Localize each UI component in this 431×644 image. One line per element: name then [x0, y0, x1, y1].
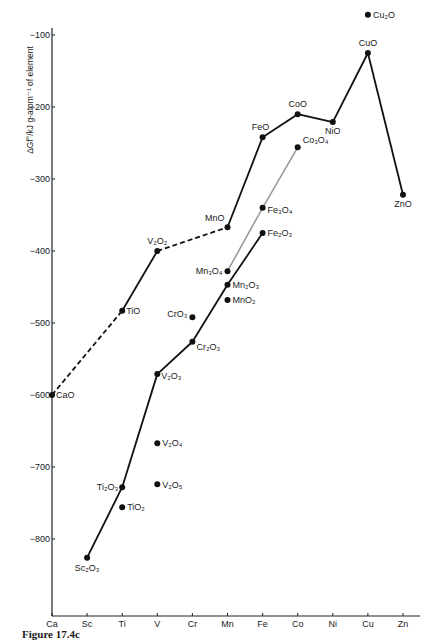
- data-point: [225, 282, 231, 288]
- data-point-label: V₂O₄: [162, 438, 182, 448]
- data-point-label: CoO: [288, 99, 307, 109]
- x-tick-label: Zn: [398, 619, 409, 629]
- x-tick-label: Sc: [82, 619, 93, 629]
- data-point: [119, 308, 125, 314]
- data-point-label: Ti₂O₃: [97, 482, 119, 492]
- data-point-label: FeO: [252, 122, 270, 132]
- data-point-label: TiO: [126, 306, 140, 316]
- data-point: [295, 144, 301, 150]
- data-point-label: V₂O₅: [162, 480, 182, 490]
- data-point: [225, 268, 231, 274]
- monoxide-line: [298, 114, 333, 122]
- data-point-label: Cr₂O₃: [196, 342, 220, 352]
- y-tick-label: −500: [30, 318, 50, 328]
- y-tick-label: −600: [30, 390, 50, 400]
- data-point: [189, 339, 195, 345]
- monoxide-line: [228, 137, 263, 227]
- x-tick-label: V: [154, 619, 160, 629]
- data-point-label: Sc₂O₃: [75, 563, 100, 573]
- data-point: [154, 371, 160, 377]
- x-tick-label: Co: [292, 619, 304, 629]
- sesquioxide-line: [192, 285, 227, 342]
- data-point-label: Cu₂O: [373, 10, 395, 20]
- oxide-free-energy-chart: −100−200−300−400−500−600−700−800CaScTiVC…: [0, 0, 431, 644]
- data-point: [154, 248, 160, 254]
- data-point-label: Co₃O₄: [303, 135, 329, 145]
- monoxide-line: [122, 251, 157, 311]
- data-point: [400, 192, 406, 198]
- data-point: [260, 134, 266, 140]
- data-point: [295, 111, 301, 117]
- data-point: [260, 205, 266, 211]
- x-tick-label: Fe: [257, 619, 268, 629]
- x-tick-label: Ti: [119, 619, 126, 629]
- y-tick-label: −300: [30, 174, 50, 184]
- y-tick-label: −700: [30, 462, 50, 472]
- data-point-label: V₂O₃: [161, 371, 181, 381]
- data-point-label: TiO₂: [127, 502, 145, 512]
- data-point-label: MnO₂: [233, 295, 257, 305]
- data-point-label: MnO: [205, 213, 225, 223]
- data-point: [119, 484, 125, 490]
- data-point-label: V₂O₂: [147, 236, 167, 246]
- x-tick-label: Ni: [329, 619, 338, 629]
- sesquioxide-line: [87, 487, 122, 558]
- data-point: [154, 481, 160, 487]
- data-point-label: Fe₂O₃: [268, 228, 293, 238]
- data-point: [365, 50, 371, 56]
- data-point: [260, 230, 266, 236]
- y-tick-label: −800: [30, 534, 50, 544]
- data-point-label: CuO: [359, 38, 378, 48]
- x-tick-label: Cr: [188, 619, 198, 629]
- figure-caption: Figure 17.4c: [22, 628, 80, 640]
- data-point: [49, 392, 55, 398]
- monoxide-line-dashed: [52, 311, 122, 395]
- spinel-line: [263, 147, 298, 207]
- y-tick-label: −400: [30, 246, 50, 256]
- x-tick-label: Mn: [221, 619, 234, 629]
- sesquioxide-line: [122, 374, 157, 487]
- data-point-label: CaO: [56, 390, 75, 400]
- data-point-label: CrO₃: [167, 309, 187, 319]
- data-point: [225, 297, 231, 303]
- data-point-label: ZnO: [394, 199, 412, 209]
- data-point: [154, 440, 160, 446]
- data-point: [84, 555, 90, 561]
- data-point: [119, 504, 125, 510]
- y-tick-label: −100: [30, 30, 50, 40]
- data-point: [189, 314, 195, 320]
- y-axis-label: ΔGf°/kJ g-atom⁻¹ of element: [25, 46, 35, 154]
- data-point: [225, 224, 231, 230]
- monoxide-line: [333, 53, 368, 122]
- data-point: [365, 12, 371, 18]
- data-point-label: Fe₃O₄: [268, 205, 293, 215]
- data-point: [330, 119, 336, 125]
- sesquioxide-line: [157, 342, 192, 374]
- x-tick-label: Cu: [362, 619, 374, 629]
- monoxide-line-dashed: [157, 227, 227, 251]
- data-point-label: Mn₂O₃: [233, 280, 260, 290]
- data-point-label: Mn₃O₄: [196, 266, 223, 276]
- monoxide-line: [368, 53, 403, 195]
